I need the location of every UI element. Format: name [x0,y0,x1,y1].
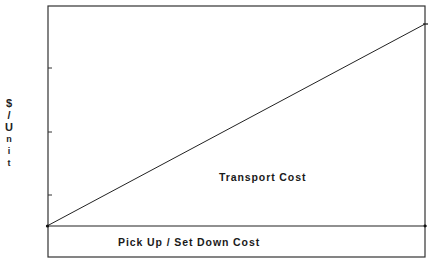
end-point-marker [424,225,427,228]
y-label-char: n [2,133,16,145]
y-axis-label: $ / U n i t [2,97,16,169]
pickup-setdown-cost-label: Pick Up / Set Down Cost [118,236,260,248]
y-label-char: / [2,109,16,121]
start-point-marker [46,224,49,227]
y-label-char: i [2,145,16,157]
y-label-char: U [2,121,16,133]
y-label-char: t [2,157,16,169]
transport-cost-label: Transport Cost [219,171,306,183]
transport-cost-line [47,24,425,226]
plot-frame [48,6,425,257]
chart-canvas [0,0,430,270]
y-label-char: $ [2,97,16,109]
